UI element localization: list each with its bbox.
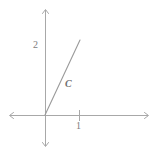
y-axis-tick-label-2: 2 (33, 40, 38, 50)
coordinate-plane-figure: 2 1 C (0, 0, 155, 157)
ray-c-label: C (65, 79, 72, 89)
x-axis-tick-label-1: 1 (76, 121, 81, 131)
y-axis-group (43, 10, 49, 147)
figure-canvas (0, 0, 155, 157)
ray-c-line (45, 40, 80, 115)
